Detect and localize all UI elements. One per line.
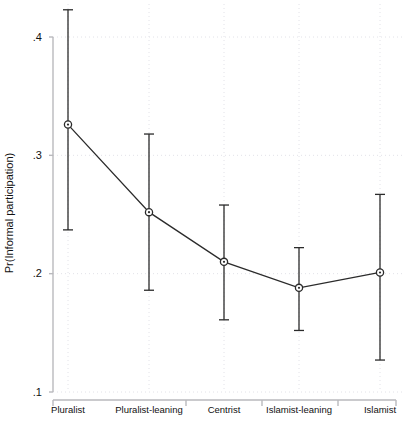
data-point-1 — [145, 209, 152, 216]
axis-lines — [49, 37, 396, 406]
chart-figure: Pr(Informal participation) .4 .3 .2 .1 P… — [0, 0, 410, 426]
data-point-3 — [295, 284, 302, 291]
data-point-4 — [376, 269, 383, 276]
data-point-2 — [220, 258, 227, 265]
error-bar-0 — [63, 10, 73, 230]
error-bar-4 — [375, 194, 385, 360]
gridlines — [53, 4, 404, 392]
plot-canvas — [0, 0, 410, 426]
data-point-0 — [64, 121, 71, 128]
